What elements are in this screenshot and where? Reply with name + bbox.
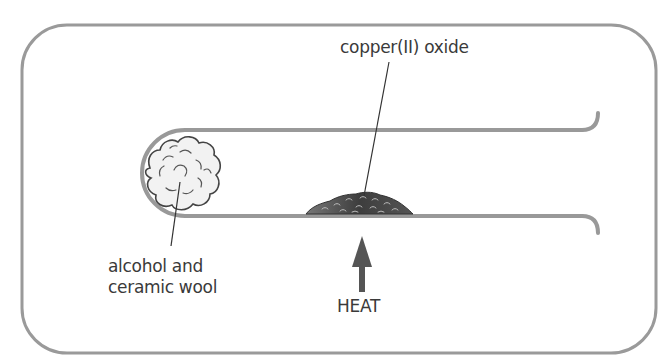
wool-label-line1: alcohol and: [108, 256, 258, 277]
ceramic-wool-plug-icon: [146, 137, 221, 210]
copper-oxide-heap-icon: [306, 192, 413, 214]
wool-label: alcohol and ceramic wool: [108, 256, 258, 298]
heat-label: HEAT: [337, 296, 380, 317]
diagram-canvas: copper(II) oxide alcohol and ceramic woo…: [0, 0, 667, 362]
wool-label-line2: ceramic wool: [108, 277, 258, 298]
copper-oxide-label: copper(II) oxide: [340, 37, 469, 58]
heat-arrow-icon: [352, 236, 372, 292]
apparatus-drawing: [0, 0, 667, 362]
